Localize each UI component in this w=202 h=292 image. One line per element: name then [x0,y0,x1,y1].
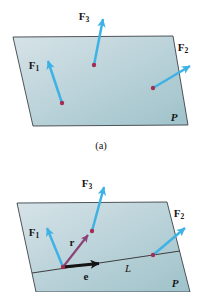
label-f2-b: F2 [174,208,184,221]
force-symbol: F [29,226,36,238]
textbook-figure: F1 F3 F2 P (a) F1 F3 F2 r e L P [0,0,202,292]
label-f2-a: F2 [178,42,188,55]
force-subscript: 2 [184,46,188,55]
force-f2-point-a [151,86,155,90]
force-subscript: 3 [88,182,92,191]
force-f2-point-b [151,253,155,257]
label-f1-a: F1 [29,60,39,73]
label-line-L: L [125,263,131,274]
force-f1-point-b [61,265,65,269]
label-unit-vector-e: e [84,271,89,282]
force-symbol: F [82,177,89,189]
label-f3-a: F3 [79,11,89,24]
force-subscript: 3 [85,15,89,24]
label-plane-P-b: P [172,278,179,289]
plane-a [13,36,188,126]
force-symbol: F [79,10,86,22]
force-f3-point-a [92,63,96,67]
force-f3-point-b [90,229,94,233]
label-f3-b: F3 [82,178,92,191]
force-subscript: 2 [180,212,184,221]
force-symbol: F [178,41,185,53]
label-position-vector-r: r [70,237,75,248]
caption-a: (a) [95,141,107,152]
force-symbol: F [29,59,36,71]
force-symbol: F [174,207,181,219]
label-f1-b: F1 [29,227,39,240]
force-subscript: 1 [35,231,39,240]
label-plane-P-a: P [171,112,178,123]
force-f1-point-a [60,101,64,105]
force-subscript: 1 [35,64,39,73]
